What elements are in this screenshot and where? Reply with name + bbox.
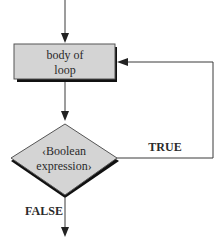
entry-arrow: [61, 0, 69, 43]
body-to-condition-arrow: [61, 82, 69, 121]
condition-label-line2: expression›: [36, 159, 91, 173]
body-of-loop-node: body of loop: [14, 44, 117, 82]
boolean-condition-node: ‹Boolean expression›: [11, 124, 119, 198]
condition-label-line1: ‹Boolean: [42, 144, 86, 158]
body-label-line1: body of: [47, 48, 84, 62]
false-label: FALSE: [25, 204, 63, 218]
true-label: TRUE: [148, 140, 181, 154]
flowchart: body of loop ‹Boolean expression› TRUE F…: [0, 0, 220, 237]
body-label-line2: loop: [54, 63, 75, 77]
